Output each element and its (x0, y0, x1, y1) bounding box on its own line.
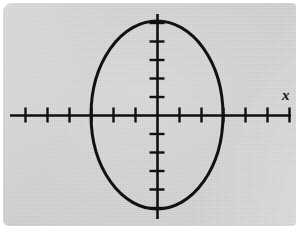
x-axis-label: x (282, 88, 290, 103)
coordinate-plane-svg (0, 0, 299, 229)
ellipse-graph-figure: x (0, 0, 299, 229)
axes-group (10, 14, 291, 219)
